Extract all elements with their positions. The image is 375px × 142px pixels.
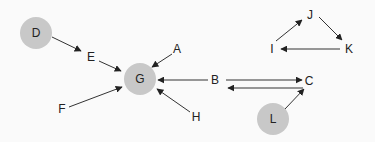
edge-a-g <box>152 54 172 67</box>
node-d-label: D <box>32 26 41 40</box>
node-e-label: E <box>87 50 95 64</box>
edge-j-k <box>319 17 342 40</box>
node-k-label: K <box>345 42 353 56</box>
edge-e-g <box>99 61 121 71</box>
graph-canvas: D E G A B C F H L I J K <box>0 0 375 142</box>
node-a-label: A <box>173 42 181 56</box>
edge-i-j <box>276 20 302 41</box>
node-f-label: F <box>58 102 65 116</box>
node-l-label: L <box>270 112 277 126</box>
edge-h-g <box>157 89 190 112</box>
node-i-label: I <box>270 42 273 56</box>
node-c-label: C <box>305 74 314 88</box>
node-h-label: H <box>192 110 201 124</box>
node-b-label: B <box>211 73 219 87</box>
edge-l-c <box>285 89 304 109</box>
node-g-label: G <box>135 72 144 86</box>
edge-d-e <box>52 37 81 51</box>
node-j-label: J <box>307 8 313 22</box>
edge-f-g <box>69 87 122 107</box>
graph-svg: D E G A B C F H L I J K <box>0 0 375 142</box>
